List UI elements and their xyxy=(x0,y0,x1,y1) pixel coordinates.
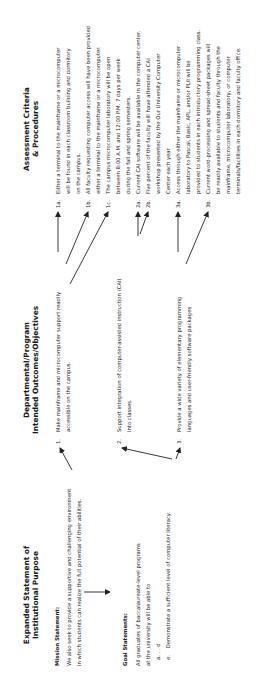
goal-to-outcome-2-arrow xyxy=(122,448,172,459)
connector-arrows xyxy=(0,0,268,684)
document-page: Expanded Statement of Institutional Purp… xyxy=(0,0,268,684)
goal-to-outcome-3-arrow xyxy=(176,448,180,459)
mission-to-outcome-1-arrow xyxy=(60,448,72,470)
outcome-2-to-2b-arrow xyxy=(140,212,148,234)
outcome-3-to-3b-arrow xyxy=(186,212,208,264)
outcome-1-to-1c-arrow xyxy=(70,212,108,284)
